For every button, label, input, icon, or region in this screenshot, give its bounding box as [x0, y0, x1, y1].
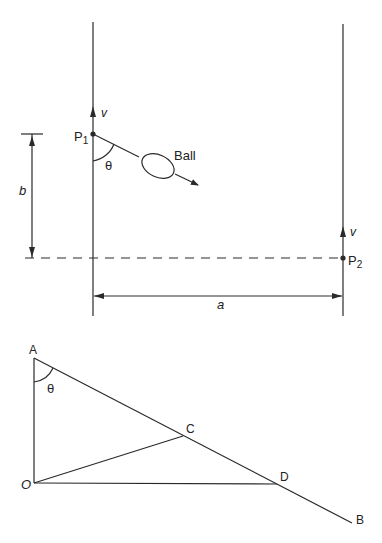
a-label: a [217, 297, 224, 312]
b-label: b [19, 183, 26, 198]
a-arrow-left-icon [94, 293, 104, 299]
p1-label: P1 [74, 129, 89, 146]
point-p2 [340, 255, 345, 260]
segment-od [34, 483, 277, 484]
theta-arc-bottom [34, 368, 53, 382]
label-b-point: B [356, 513, 364, 527]
segment-ab [34, 358, 352, 523]
top-figure: v P1 θ Ball b v P2 a [19, 22, 363, 316]
ball-label: Ball [174, 148, 196, 163]
velocity-arrow-left-icon [90, 106, 96, 117]
velocity-label-right: v [350, 225, 357, 239]
ball-ellipse [138, 149, 178, 183]
label-o-point: O [21, 477, 31, 492]
theta-label-bottom: θ [47, 381, 54, 396]
velocity-arrow-right-icon [340, 226, 346, 237]
bottom-figure: θ A O C D B [21, 343, 364, 527]
ball-trajectory-line [93, 134, 139, 157]
label-d-point: D [280, 470, 289, 484]
ball-trajectory-line-end [175, 174, 198, 185]
label-a-point: A [29, 343, 37, 357]
b-arrow-down-icon [29, 247, 35, 257]
physics-diagram: v P1 θ Ball b v P2 a [0, 0, 382, 543]
label-c-point: C [186, 422, 195, 436]
theta-label-top: θ [105, 158, 112, 173]
a-arrow-right-icon [332, 293, 342, 299]
velocity-label-left: v [101, 106, 108, 120]
b-arrow-up-icon [29, 136, 35, 146]
segment-oc [34, 436, 183, 483]
p2-label: P2 [348, 253, 363, 270]
